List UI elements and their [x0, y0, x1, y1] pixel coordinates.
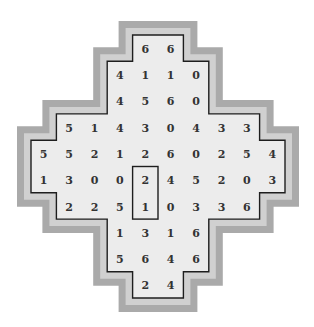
cell-value[interactable]: 5	[141, 95, 149, 108]
cell-value[interactable]: 4	[116, 69, 124, 82]
cell-value[interactable]: 6	[243, 201, 251, 214]
cell-value[interactable]: 6	[192, 227, 200, 240]
cell-value[interactable]: 0	[243, 174, 251, 187]
cell-value[interactable]: 4	[116, 122, 124, 135]
cell-value[interactable]: 2	[141, 279, 149, 292]
cell-value[interactable]: 3	[218, 201, 226, 214]
cell-value[interactable]: 6	[192, 253, 200, 266]
cell-value[interactable]: 3	[141, 227, 149, 240]
cell-value[interactable]: 3	[65, 174, 73, 187]
cell-value[interactable]: 4	[192, 122, 200, 135]
cell-value[interactable]: 4	[167, 279, 175, 292]
cell-value[interactable]: 3	[192, 201, 200, 214]
cell-value[interactable]: 5	[243, 148, 251, 161]
cell-value[interactable]: 0	[91, 174, 99, 187]
cell-value[interactable]: 6	[141, 43, 149, 56]
cell-value[interactable]: 6	[167, 43, 175, 56]
cell-value[interactable]: 2	[141, 148, 149, 161]
cell-value[interactable]: 2	[141, 174, 149, 187]
cell-value[interactable]: 4	[268, 148, 276, 161]
cell-value[interactable]: 4	[167, 253, 175, 266]
cell-value[interactable]: 2	[218, 174, 226, 187]
cell-value[interactable]: 1	[116, 227, 124, 240]
cell-value[interactable]: 5	[192, 174, 200, 187]
cell-value[interactable]: 0	[192, 69, 200, 82]
cell-value[interactable]: 6	[167, 148, 175, 161]
cell-value[interactable]: 1	[167, 69, 175, 82]
cell-value[interactable]: 5	[116, 201, 124, 214]
cell-value[interactable]: 0	[167, 201, 175, 214]
cell-value[interactable]: 2	[65, 201, 73, 214]
cell-value[interactable]: 0	[192, 148, 200, 161]
cell-value[interactable]: 1	[141, 69, 149, 82]
cell-value[interactable]: 3	[218, 122, 226, 135]
cell-value[interactable]: 0	[116, 174, 124, 187]
cell-value[interactable]: 6	[141, 253, 149, 266]
cell-value[interactable]: 1	[91, 122, 99, 135]
cell-value[interactable]: 2	[91, 148, 99, 161]
cell-value[interactable]: 6	[167, 95, 175, 108]
puzzle-board: 6641104560514304335521260254130024520322…	[0, 0, 314, 327]
cell-value[interactable]: 2	[91, 201, 99, 214]
cell-value[interactable]: 1	[116, 148, 124, 161]
cell-value[interactable]: 3	[243, 122, 251, 135]
cell-value[interactable]: 1	[167, 227, 175, 240]
cell-value[interactable]: 3	[141, 122, 149, 135]
cell-value[interactable]: 2	[218, 148, 226, 161]
cell-value[interactable]: 5	[65, 122, 73, 135]
cell-value[interactable]: 0	[192, 95, 200, 108]
cell-value[interactable]: 3	[268, 174, 276, 187]
cell-value[interactable]: 1	[40, 174, 48, 187]
cell-value[interactable]: 4	[116, 95, 124, 108]
cell-value[interactable]: 1	[141, 201, 149, 214]
cell-value[interactable]: 0	[167, 122, 175, 135]
cell-value[interactable]: 5	[65, 148, 73, 161]
cell-value[interactable]: 4	[167, 174, 175, 187]
cell-value[interactable]: 5	[116, 253, 124, 266]
cell-value[interactable]: 5	[40, 148, 48, 161]
